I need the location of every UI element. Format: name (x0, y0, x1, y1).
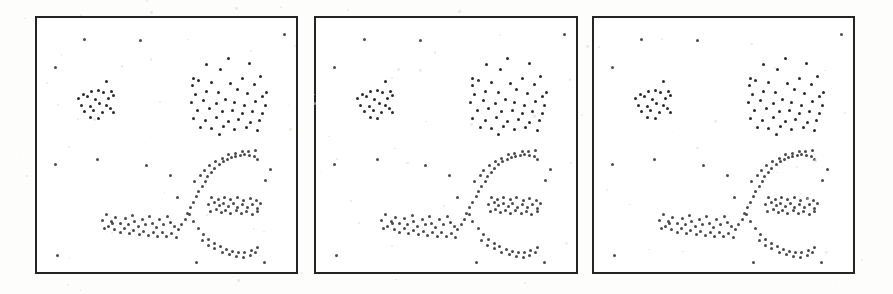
scatter-point (440, 231, 443, 234)
scatter-point (391, 111, 394, 114)
scatter-point (701, 223, 704, 226)
scatter-point (426, 234, 429, 237)
scan-speck (825, 251, 828, 254)
scan-speck (682, 251, 684, 253)
scatter-point (487, 107, 490, 110)
scatter-point (523, 104, 526, 107)
scatter-point (372, 109, 375, 112)
scatter-point (471, 117, 474, 120)
scatter-point (411, 214, 414, 217)
scatter-point (221, 157, 224, 160)
scatter-point (529, 249, 532, 252)
scatter-point (643, 95, 646, 98)
scatter-point (207, 203, 210, 206)
scatter-point (754, 79, 757, 82)
scatter-point (83, 110, 86, 113)
scan-speck (629, 204, 630, 205)
scatter-point (83, 38, 86, 41)
scatter-point (800, 153, 803, 156)
scatter-point (805, 62, 808, 65)
scatter-point (751, 93, 754, 96)
scatter-point (536, 158, 539, 161)
scatter-point (469, 101, 472, 104)
scatter-point (416, 225, 419, 228)
scatter-point (533, 83, 536, 86)
scatter-point (442, 223, 445, 226)
scatter-point (549, 168, 552, 171)
scatter-point (493, 201, 496, 204)
scatter-point (482, 99, 485, 102)
scatter-point (56, 254, 59, 257)
scatter-point (694, 225, 697, 228)
scan-speck (19, 157, 20, 158)
scatter-point (166, 215, 169, 218)
scatter-point (689, 229, 692, 232)
scan-speck (458, 10, 461, 13)
scatter-point (715, 218, 718, 221)
scatter-point (811, 251, 814, 254)
scatter-point (89, 116, 92, 119)
scatter-point (128, 232, 131, 235)
scatter-point (500, 110, 503, 113)
scatter-point (649, 109, 652, 112)
scatter-point (534, 149, 537, 152)
scatter-point (840, 33, 843, 36)
scan-speck (478, 81, 479, 82)
scatter-point (365, 95, 368, 98)
scatter-point (646, 116, 649, 119)
scatter-point (434, 226, 437, 229)
scatter-point (810, 83, 813, 86)
scan-speck (150, 11, 153, 14)
scatter-point (361, 93, 364, 96)
scatter-point (192, 77, 195, 80)
scatter-point (249, 197, 252, 200)
scatter-point (210, 81, 213, 84)
scatter-point (248, 62, 251, 65)
scatter-point (723, 215, 726, 218)
scan-speck (280, 6, 282, 8)
scatter-point (821, 179, 824, 182)
scan-speck (80, 14, 82, 16)
scatter-point (792, 209, 795, 212)
scatter-point (446, 215, 449, 218)
scatter-point (112, 111, 115, 114)
scatter-point (528, 121, 531, 124)
scatter-point (232, 202, 235, 205)
scatter-point (797, 212, 800, 215)
scatter-point (249, 121, 252, 124)
scan-speck (569, 78, 571, 80)
scatter-point (229, 198, 232, 201)
scatter-point (107, 225, 110, 228)
scatter-point (523, 251, 526, 254)
scatter-point (513, 128, 516, 131)
scatter-point (816, 202, 819, 205)
scatter-point (243, 153, 246, 156)
scatter-point (54, 163, 57, 166)
scatter-point (384, 80, 387, 83)
scatter-point (218, 204, 221, 207)
scatter-point (770, 242, 773, 245)
scatter-point (428, 215, 431, 218)
scatter-point (514, 155, 517, 158)
scatter-point (699, 230, 702, 233)
scatter-point (525, 210, 528, 213)
scatter-point (502, 202, 505, 205)
scatter-point (813, 210, 816, 213)
scatter-point (207, 238, 210, 241)
scatter-point (97, 89, 100, 92)
scatter-point (234, 152, 237, 155)
scatter-point (431, 231, 434, 234)
scatter-point (749, 117, 752, 120)
scatter-point (142, 230, 145, 233)
scatter-point (448, 174, 451, 177)
scatter-point (718, 231, 721, 234)
scatter-point (504, 209, 507, 212)
scatter-point (422, 230, 425, 233)
scatter-point (793, 88, 796, 91)
scan-speck (443, 205, 445, 207)
scatter-point (774, 91, 777, 94)
scatter-point (96, 158, 99, 161)
scatter-point (680, 227, 683, 230)
scatter-point (712, 226, 715, 229)
scatter-point (766, 210, 769, 213)
